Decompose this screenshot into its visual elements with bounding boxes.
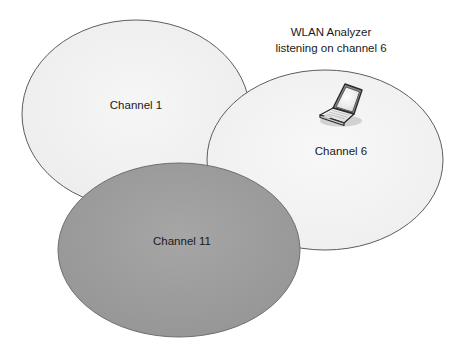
cell-channel-1-label: Channel 1 [110, 99, 162, 111]
analyzer-annotation-line-1: WLAN Analyzer [291, 26, 372, 38]
diagram-svg: Channel 1 Channel 6 [0, 0, 460, 355]
cell-channel-11[interactable]: Channel 11 [58, 163, 300, 337]
analyzer-annotation: WLAN Analyzer listening on channel 6 [275, 26, 386, 54]
wlan-channel-diagram: Channel 1 Channel 6 [0, 0, 460, 355]
cell-channel-11-ellipse [58, 163, 300, 337]
cell-channel-11-label: Channel 11 [153, 235, 211, 247]
cell-channel-6-label: Channel 6 [315, 145, 367, 157]
analyzer-annotation-line-2: listening on channel 6 [275, 42, 386, 54]
